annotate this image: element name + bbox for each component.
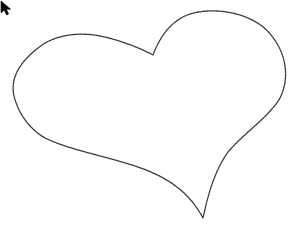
heart-drawing	[0, 0, 295, 230]
heart-outline-stroke	[13, 11, 285, 218]
arrow-pointer-icon	[0, 0, 14, 16]
drawing-canvas[interactable]: Hand-drawn heart	[0, 0, 295, 230]
